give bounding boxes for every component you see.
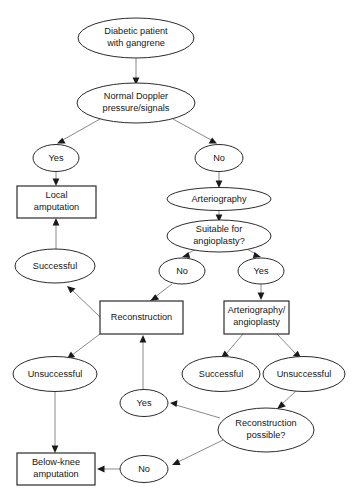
edge-angioplasty-to-unsuccessful <box>277 334 301 358</box>
edge-unsuccessful-to-reconstruction-possible <box>277 391 296 409</box>
node-unsuccessful-reconstruction[interactable]: Unsuccessful <box>13 357 97 392</box>
node-diabetic-patient-with-gangrene[interactable]: Diabetic patient with gangrene <box>78 18 194 58</box>
edge-successful-to-local-amputation <box>53 218 60 249</box>
node-label-line: Suitable for <box>196 224 242 234</box>
node-reconstruction-possible[interactable]: Reconstruction possible? <box>218 408 314 452</box>
edge-reconstruction-to-unsuccessful <box>67 334 100 359</box>
node-yes-doppler-branch[interactable]: Yes <box>33 145 79 172</box>
edge-yes-to-reconstruction <box>140 335 147 390</box>
node-label-line: with gangrene <box>106 38 165 48</box>
flowchart-diagram: Diabetic patient with gangrene Normal Do… <box>0 0 355 496</box>
edge-no-to-reconstruction <box>150 284 172 301</box>
node-label-line: Arteriography/ <box>228 305 286 315</box>
node-label-line: No <box>138 464 150 474</box>
node-label-line: Diabetic patient <box>104 26 168 36</box>
node-label-line: Successful <box>199 369 243 379</box>
node-label-line: pressure/signals <box>103 103 170 113</box>
edge-reconstruction-to-successful <box>67 286 100 317</box>
edge-reconstruction-possible-to-yes <box>170 400 220 418</box>
edge-no-to-below-knee <box>97 466 120 473</box>
edge-yes-to-local-amputation <box>53 172 60 186</box>
node-successful-reconstruction[interactable]: Successful <box>15 249 95 283</box>
node-label-line: Below-knee <box>32 457 80 467</box>
node-below-knee-amputation[interactable]: Below-knee amputation <box>17 453 95 485</box>
node-label-line: No <box>176 266 188 276</box>
node-label-line: amputation <box>33 469 78 479</box>
edge-angioplasty-to-successful <box>221 334 243 358</box>
node-label-line: Successful <box>33 261 77 271</box>
node-no-doppler-branch[interactable]: No <box>195 145 243 172</box>
edge-diabetic-to-doppler <box>133 58 140 85</box>
node-label-line: Yes <box>137 398 152 408</box>
node-unsuccessful-angioplasty[interactable]: Unsuccessful <box>263 357 345 392</box>
node-label-line: Unsuccessful <box>28 369 83 379</box>
edge-doppler-to-yes <box>57 119 100 144</box>
node-label-line: angioplasty <box>233 317 280 327</box>
edge-no-to-arteriography <box>216 172 223 188</box>
node-local-amputation[interactable]: Local amputation <box>17 186 96 218</box>
node-label-line: Yes <box>254 266 269 276</box>
node-successful-angioplasty[interactable]: Successful <box>182 357 260 392</box>
node-label-line: Yes <box>49 153 64 163</box>
node-layer: Diabetic patient with gangrene Normal Do… <box>13 18 345 485</box>
node-label-line: possible? <box>247 430 286 440</box>
node-no-angioplasty-branch[interactable]: No <box>159 258 205 284</box>
node-label-line: Reconstruction <box>111 312 172 322</box>
node-yes-angioplasty-branch[interactable]: Yes <box>238 258 284 284</box>
node-label-line: amputation <box>34 202 79 212</box>
node-label-line: Reconstruction <box>235 418 296 428</box>
node-no-reconstruction-possible[interactable]: No <box>120 456 168 483</box>
node-normal-doppler-pressure-signals[interactable]: Normal Doppler pressure/signals <box>77 83 195 123</box>
node-label-line: Unsuccessful <box>277 369 332 379</box>
node-label-line: angioplasty? <box>193 236 245 246</box>
node-label-line: Normal Doppler <box>104 91 168 101</box>
node-arteriography-angioplasty[interactable]: Arteriography/ angioplasty <box>224 301 289 334</box>
edge-yes-to-arteriography-angioplasty <box>258 284 265 300</box>
node-suitable-for-angioplasty[interactable]: Suitable for angioplasty? <box>167 220 271 252</box>
node-label-line: No <box>213 153 225 163</box>
node-yes-reconstruction-possible[interactable]: Yes <box>120 390 168 417</box>
edge-doppler-to-no <box>173 119 217 144</box>
node-reconstruction[interactable]: Reconstruction <box>100 301 183 334</box>
edge-reconstruction-possible-to-no <box>172 440 223 465</box>
flowchart-canvas: Diabetic patient with gangrene Normal Do… <box>0 0 355 496</box>
node-label-line: Local <box>46 190 68 200</box>
node-arteriography[interactable]: Arteriography <box>167 188 271 211</box>
edge-unsuccessful-to-below-knee <box>52 392 59 453</box>
node-label-line: Arteriography <box>191 194 247 204</box>
